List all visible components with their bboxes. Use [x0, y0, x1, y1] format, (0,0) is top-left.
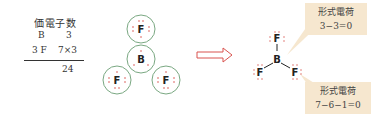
- lewis-f-right: F: [292, 67, 299, 78]
- lewis-b: B: [273, 54, 281, 65]
- atom-b: B: [137, 54, 145, 65]
- atom-f-left: F: [114, 75, 121, 86]
- hollow-arrow-icon: [197, 48, 232, 62]
- atom-f-top: F: [138, 24, 145, 35]
- lewis-f-top: F: [274, 33, 281, 44]
- callout-formula: 7−6−1=0: [305, 98, 371, 112]
- lewis-structure: F B F F: [253, 31, 301, 79]
- atom-f-right: F: [163, 75, 170, 86]
- lewis-f-left: F: [257, 67, 264, 78]
- callout-formal-charge-f: 形式電荷 7−6−1=0: [305, 82, 371, 114]
- callout-title: 形式電荷: [305, 84, 371, 98]
- callout-title: 形式電荷: [305, 5, 367, 19]
- callout-formal-charge-b: 形式電荷 3−3=0: [305, 3, 367, 35]
- callout-formula: 3−3=0: [305, 19, 367, 33]
